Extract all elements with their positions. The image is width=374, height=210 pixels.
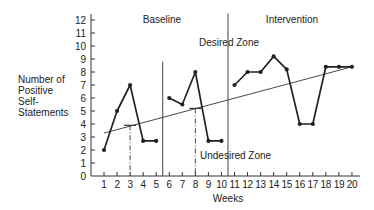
x-tick-label: 20 bbox=[347, 179, 358, 190]
data-point bbox=[311, 122, 315, 126]
x-tick-label: 6 bbox=[167, 179, 173, 190]
data-point bbox=[337, 65, 341, 69]
x-tick-label: 15 bbox=[281, 179, 292, 190]
data-point bbox=[245, 70, 249, 74]
y-tick-label: 5 bbox=[80, 106, 86, 117]
data-point bbox=[180, 102, 184, 106]
x-tick-label: 13 bbox=[255, 179, 266, 190]
y-tick-label: 7 bbox=[80, 80, 86, 91]
data-point bbox=[193, 70, 197, 74]
x-tick-label: 2 bbox=[114, 179, 120, 190]
y-tick-label: 9 bbox=[80, 54, 86, 65]
x-tick-label: 7 bbox=[180, 179, 186, 190]
data-point bbox=[115, 109, 119, 113]
series-line bbox=[235, 56, 352, 124]
x-tick-label: 17 bbox=[308, 179, 319, 190]
data-point bbox=[141, 139, 145, 143]
data-point bbox=[285, 67, 289, 71]
x-tick-label: 3 bbox=[127, 179, 133, 190]
data-point bbox=[206, 139, 210, 143]
y-tick-label: 2 bbox=[80, 145, 86, 156]
x-tick-label: 16 bbox=[294, 179, 305, 190]
x-tick-label: 9 bbox=[206, 179, 212, 190]
x-tick-label: 4 bbox=[141, 179, 147, 190]
x-tick-label: 11 bbox=[230, 179, 241, 190]
x-tick-label: 14 bbox=[268, 179, 279, 190]
x-tick-label: 1 bbox=[101, 179, 107, 190]
data-point bbox=[167, 96, 171, 100]
intervention-label: Intervention bbox=[266, 14, 318, 25]
data-point bbox=[350, 65, 354, 69]
y-axis-label: Number ofPositiveSelf-Statements bbox=[18, 74, 69, 118]
x-tick-label: 5 bbox=[154, 179, 160, 190]
data-point bbox=[272, 54, 276, 58]
x-tick-label: 19 bbox=[334, 179, 345, 190]
data-point bbox=[102, 148, 106, 152]
y-tick-label: 1 bbox=[80, 158, 86, 169]
y-tick-label: 4 bbox=[80, 119, 86, 130]
data-point bbox=[259, 70, 263, 74]
x-tick-label: 18 bbox=[321, 179, 332, 190]
y-tick-label: 8 bbox=[80, 67, 86, 78]
data-series bbox=[102, 83, 158, 152]
y-tick-label: 3 bbox=[80, 132, 86, 143]
y-tick-label: 12 bbox=[75, 15, 87, 26]
x-tick-label: 12 bbox=[242, 179, 253, 190]
x-axis-label: Weeks bbox=[213, 193, 243, 204]
desired-zone-label: Desired Zone bbox=[199, 37, 259, 48]
data-point bbox=[324, 65, 328, 69]
baseline-label: Baseline bbox=[143, 14, 182, 25]
undesired-zone-label: Undesired Zone bbox=[200, 150, 272, 161]
y-tick-label: 10 bbox=[75, 41, 87, 52]
data-series bbox=[232, 54, 354, 126]
chart: 0123456789101112123456789101112131415161… bbox=[0, 0, 374, 210]
x-tick-label: 8 bbox=[193, 179, 199, 190]
x-tick-label: 10 bbox=[216, 179, 227, 190]
data-point bbox=[219, 139, 223, 143]
data-point bbox=[154, 139, 158, 143]
data-point bbox=[128, 83, 132, 87]
data-point bbox=[232, 83, 236, 87]
y-tick-label: 6 bbox=[80, 93, 86, 104]
y-tick-label: 0 bbox=[80, 171, 86, 182]
data-point bbox=[298, 122, 302, 126]
y-tick-label: 11 bbox=[76, 28, 87, 39]
